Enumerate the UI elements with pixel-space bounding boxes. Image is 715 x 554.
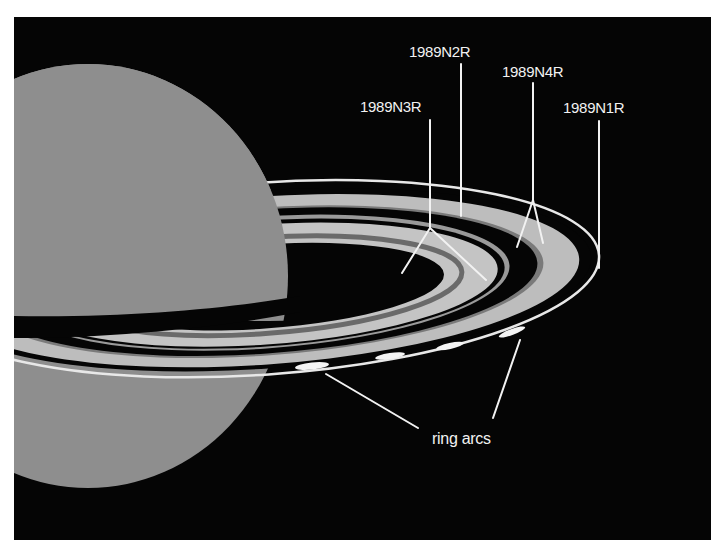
- leader-ring-arcs-right: [493, 340, 520, 418]
- label-ring-arcs: ring arcs: [432, 430, 491, 447]
- label-1989n4r: 1989N4R: [502, 63, 564, 80]
- neptune-rings-diagram: 1989N2R 1989N4R 1989N3R 1989N1R ring arc…: [0, 0, 715, 554]
- label-1989n1r: 1989N1R: [563, 99, 625, 116]
- label-1989n2r: 1989N2R: [409, 43, 471, 60]
- leader-ring-arcs-left: [326, 374, 418, 428]
- label-1989n3r: 1989N3R: [360, 98, 422, 115]
